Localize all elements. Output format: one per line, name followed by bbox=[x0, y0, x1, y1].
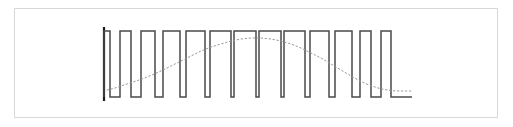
screenshot-root bbox=[0, 0, 513, 127]
series-layer bbox=[104, 27, 412, 101]
pwm-waveform-plot bbox=[0, 0, 513, 127]
pwm-pulse-train bbox=[104, 31, 412, 97]
